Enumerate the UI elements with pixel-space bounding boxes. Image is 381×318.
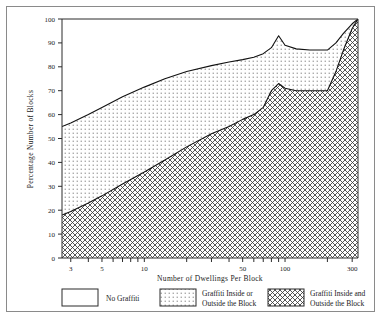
x-axis-ticks: 351050100300 bbox=[69, 258, 358, 273]
y-axis-ticks: 0102030405060708090100 bbox=[45, 16, 63, 263]
legend-swatch-inside-and-outside bbox=[268, 289, 304, 306]
y-tick-label: 100 bbox=[45, 16, 56, 24]
legend-label-inside-or-outside-line1: Graffiti Inside or bbox=[202, 289, 253, 298]
y-tick-label: 90 bbox=[48, 39, 56, 47]
x-tick-label: 50 bbox=[239, 265, 247, 273]
y-tick-label: 70 bbox=[48, 87, 56, 95]
y-tick-label: 40 bbox=[48, 159, 56, 167]
legend-label-inside-and-outside-line2: Outside the Block bbox=[310, 299, 364, 308]
y-axis-title: Percentage Number of Blocks bbox=[26, 90, 35, 188]
x-tick-label: 3 bbox=[69, 265, 73, 273]
x-tick-label: 10 bbox=[141, 265, 149, 273]
x-tick-label: 300 bbox=[347, 265, 358, 273]
area-chart: 0102030405060708090100 351050100300 Perc… bbox=[0, 0, 381, 318]
legend: No Graffiti Graffiti Inside or Outside t… bbox=[62, 289, 366, 308]
y-tick-label: 0 bbox=[52, 255, 56, 263]
y-tick-label: 50 bbox=[48, 135, 56, 143]
x-tick-label: 100 bbox=[280, 265, 291, 273]
legend-swatch-inside-or-outside bbox=[160, 289, 196, 306]
x-tick-label: 5 bbox=[100, 265, 104, 273]
y-tick-label: 60 bbox=[48, 111, 56, 119]
legend-item-graffiti-inside-or-outside: Graffiti Inside or Outside the Block bbox=[160, 289, 256, 308]
x-axis-title: Number of Dwellings Per Block bbox=[157, 274, 263, 283]
y-tick-label: 10 bbox=[48, 231, 56, 239]
y-tick-label: 30 bbox=[48, 183, 56, 191]
y-tick-label: 80 bbox=[48, 63, 56, 71]
y-tick-label: 20 bbox=[48, 207, 56, 215]
legend-label-inside-and-outside-line1: Graffiti Inside and bbox=[310, 289, 366, 298]
legend-label-inside-or-outside-line2: Outside the Block bbox=[202, 299, 256, 308]
figure-container: 0102030405060708090100 351050100300 Perc… bbox=[0, 0, 381, 318]
legend-swatch-no-graffiti bbox=[62, 289, 98, 306]
legend-item-no-graffiti: No Graffiti bbox=[62, 289, 139, 306]
legend-item-graffiti-inside-and-outside: Graffiti Inside and Outside the Block bbox=[268, 289, 366, 308]
legend-label-no-graffiti: No Graffiti bbox=[106, 294, 139, 303]
